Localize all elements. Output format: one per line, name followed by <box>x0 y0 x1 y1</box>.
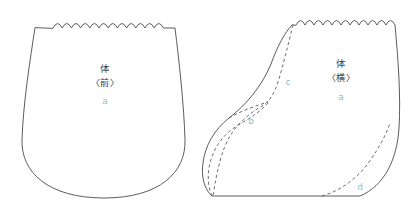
body-front-view: 〈前〉 <box>91 77 119 88</box>
piece-body-side: 体 〈横〉 a b c d <box>202 21 399 197</box>
body-front-outline <box>22 24 185 199</box>
seam-marker-c: c <box>286 77 291 87</box>
seam-marker-d: d <box>357 182 363 192</box>
body-side-letter: a <box>338 92 344 102</box>
seam-marker-b: b <box>248 116 254 126</box>
body-front-kanji: 体 <box>100 63 110 74</box>
pattern-canvas: 体 〈前〉 a 体 〈横〉 a b c d <box>0 0 411 224</box>
body-side-kanji: 体 <box>336 58 346 69</box>
body-front-letter: a <box>102 96 108 106</box>
sewing-pattern-diagram: 体 〈前〉 a 体 〈横〉 a b c d <box>0 0 411 224</box>
body-side-view: 〈横〉 <box>327 72 355 83</box>
body-side-outline <box>202 21 399 197</box>
piece-body-front: 体 〈前〉 a <box>22 24 185 199</box>
